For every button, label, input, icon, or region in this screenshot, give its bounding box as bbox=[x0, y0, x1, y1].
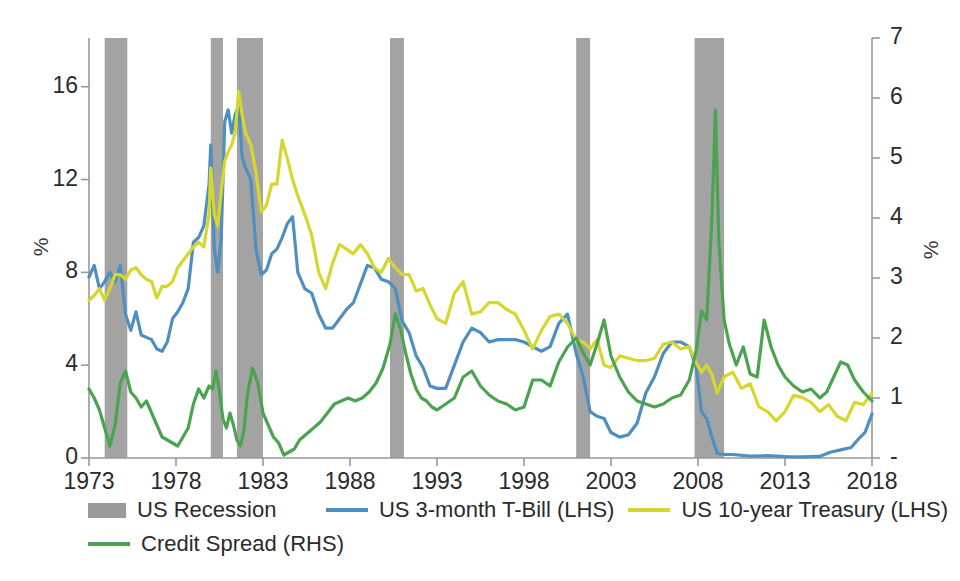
legend-label-us-recession: US Recession bbox=[137, 497, 276, 523]
y-tick-label-left: 16 bbox=[28, 72, 78, 99]
x-tick-label: 1998 bbox=[479, 468, 569, 495]
series-line-credit-spread-rhs bbox=[89, 110, 872, 455]
y-tick-label-right: 7 bbox=[890, 23, 930, 50]
legend-label-credit-spread: Credit Spread (RHS) bbox=[141, 531, 344, 557]
y-tick-label-right: 6 bbox=[890, 83, 930, 110]
y-tick-label-left: 12 bbox=[28, 165, 78, 192]
y-tick-label-right: - bbox=[890, 443, 930, 470]
y-tick-label-left: 8 bbox=[28, 257, 78, 284]
y-tick-label-right: 3 bbox=[890, 263, 930, 290]
chart-legend: US Recession US 3-month T-Bill (LHS) US … bbox=[88, 493, 948, 561]
x-tick-label: 2008 bbox=[653, 468, 743, 495]
x-tick-label: 2003 bbox=[566, 468, 656, 495]
y-tick-label-right: 4 bbox=[890, 203, 930, 230]
tbill-line-swatch-icon bbox=[326, 508, 368, 512]
legend-label-treasury: US 10-year Treasury (LHS) bbox=[681, 497, 948, 523]
recession-band bbox=[390, 38, 404, 458]
credit-spread-line-swatch-icon bbox=[88, 542, 130, 546]
x-tick-label: 1983 bbox=[218, 468, 308, 495]
series-line-us-3-month-t-bill-lhs bbox=[89, 105, 872, 457]
x-tick-label: 2018 bbox=[827, 468, 917, 495]
y-tick-label-right: 5 bbox=[890, 143, 930, 170]
legend-item-us-recession[interactable]: US Recession bbox=[88, 497, 326, 523]
recession-swatch-icon bbox=[88, 503, 126, 518]
legend-item-treasury[interactable]: US 10-year Treasury (LHS) bbox=[628, 497, 948, 523]
y-axis-right-title: % bbox=[919, 235, 943, 265]
legend-item-tbill[interactable]: US 3-month T-Bill (LHS) bbox=[326, 497, 629, 523]
legend-item-credit-spread[interactable]: Credit Spread (RHS) bbox=[88, 531, 344, 557]
axes-group bbox=[81, 38, 880, 466]
recession-band bbox=[105, 38, 128, 458]
x-tick-label: 1988 bbox=[305, 468, 395, 495]
legend-row-2: Credit Spread (RHS) bbox=[88, 527, 948, 561]
x-tick-label: 1993 bbox=[392, 468, 482, 495]
legend-label-tbill: US 3-month T-Bill (LHS) bbox=[379, 497, 615, 523]
y-tick-label-left: 4 bbox=[28, 350, 78, 377]
series-line-us-10-year-treasury-lhs bbox=[89, 91, 872, 421]
y-tick-label-left: 0 bbox=[28, 443, 78, 470]
y-tick-label-right: 1 bbox=[890, 383, 930, 410]
x-tick-label: 1978 bbox=[131, 468, 221, 495]
chart-root: % % 0481216 -1234567 1973197819831988199… bbox=[0, 0, 960, 581]
series-lines-group bbox=[89, 91, 872, 456]
legend-row-1: US Recession US 3-month T-Bill (LHS) US … bbox=[88, 493, 948, 527]
x-tick-label: 2013 bbox=[740, 468, 830, 495]
treasury-line-swatch-icon bbox=[628, 508, 670, 512]
x-tick-label: 1973 bbox=[44, 468, 134, 495]
y-tick-label-right: 2 bbox=[890, 323, 930, 350]
